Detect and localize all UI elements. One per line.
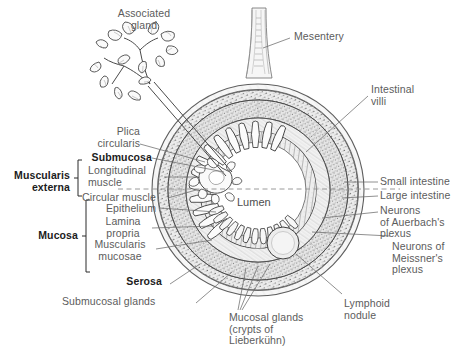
bracket-muscularis-externa — [74, 160, 82, 196]
label-mesentery: Mesentery — [294, 31, 344, 43]
diagram-canvas: Associated gland Mesentery Intestinal vi… — [0, 0, 459, 364]
label-longitudinal-muscle: Longitudinal muscle — [88, 165, 146, 188]
label-muscularis-externa: Muscularis externa — [2, 170, 70, 193]
label-plica-circularis: Plica circularis — [68, 126, 140, 149]
label-intestinal-villi: Intestinal villi — [371, 84, 414, 107]
mesentery-shape — [246, 8, 272, 78]
label-serosa: Serosa — [84, 276, 162, 288]
label-meissner-plexus: Neurons of Meissner's plexus — [392, 241, 444, 276]
label-submucosal-glands: Submucosal glands — [62, 296, 155, 308]
label-mucosal-glands: Mucosal glands (crypts of Lieberkühn) — [229, 312, 303, 347]
label-muscularis-mucosae: Muscularis mucosae — [84, 239, 156, 262]
label-lumen: Lumen — [237, 196, 271, 208]
label-lamina-propria: Lamina propria — [90, 216, 156, 239]
associated-gland — [90, 22, 178, 100]
label-associated-gland: Associated gland — [98, 8, 190, 31]
label-submucosa: Submucosa — [58, 152, 152, 164]
label-mucosa: Mucosa — [4, 230, 78, 242]
lymphoid-nodule — [267, 227, 299, 259]
label-small-intestine: Small intestine — [380, 176, 450, 188]
label-large-intestine: Large intestine — [380, 190, 450, 202]
label-auerbach-plexus: Neurons of Auerbach's plexus — [380, 205, 445, 240]
label-lymphoid-nodule: Lymphoid nodule — [344, 298, 390, 321]
label-epithelium: Epithelium — [86, 203, 156, 215]
